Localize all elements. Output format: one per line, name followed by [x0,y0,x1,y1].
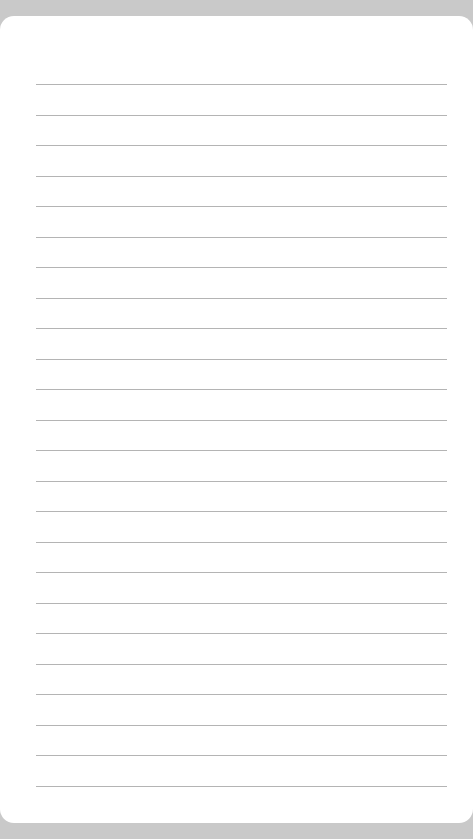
ruled-line [36,237,447,238]
ruled-line [36,389,447,390]
ruled-line [36,786,447,787]
notepad-sheet[interactable] [0,16,473,823]
ruled-line [36,145,447,146]
ruled-line [36,176,447,177]
ruled-line [36,359,447,360]
ruled-line [36,511,447,512]
ruled-line [36,633,447,634]
ruled-line [36,328,447,329]
ruled-line [36,206,447,207]
ruled-line [36,664,447,665]
ruled-line [36,572,447,573]
ruled-line [36,267,447,268]
ruled-line [36,450,447,451]
ruled-line [36,420,447,421]
ruled-line [36,755,447,756]
ruled-line [36,603,447,604]
ruled-line [36,694,447,695]
ruled-line [36,84,447,85]
ruled-line [36,481,447,482]
ruled-line [36,542,447,543]
ruled-line [36,725,447,726]
ruled-line [36,115,447,116]
ruled-line [36,298,447,299]
ruled-lines [36,16,447,823]
